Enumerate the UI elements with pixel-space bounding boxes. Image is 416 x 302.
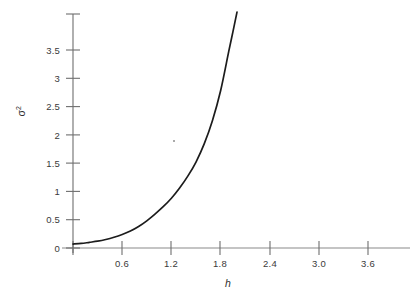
chart-figure: 0 0.5 1 1.5 2 2.5 3 3.5 0.6 1.2 1.8 2.4 … (0, 0, 416, 302)
x-axis-title: h (225, 277, 231, 289)
y-tick-label-0: 0 (38, 243, 60, 254)
y-tick-label-0point5: 0.5 (38, 214, 60, 225)
y-tick-label-1: 1 (38, 186, 60, 197)
y-axis-title: σ2 (15, 98, 28, 124)
x-tick-label-1point2: 1.2 (157, 258, 185, 269)
data-curve (73, 12, 237, 244)
scan-speck (173, 140, 175, 142)
y-tick-label-1point5: 1.5 (38, 158, 60, 169)
y-axis-title-exponent: 2 (15, 106, 22, 110)
x-tick-label-2point4: 2.4 (256, 258, 284, 269)
x-tick-label-0point6: 0.6 (108, 258, 136, 269)
x-tick-label-1point8: 1.8 (206, 258, 234, 269)
y-tick-label-2: 2 (38, 130, 60, 141)
x-tick-label-3point0: 3.0 (305, 258, 333, 269)
plot-canvas (0, 0, 416, 302)
y-tick-label-3: 3 (38, 73, 60, 84)
y-tick-label-3point5: 3.5 (38, 45, 60, 56)
y-tick-label-2point5: 2.5 (38, 101, 60, 112)
x-tick-label-3point6: 3.6 (354, 258, 382, 269)
y-axis-title-base: σ (15, 110, 27, 116)
